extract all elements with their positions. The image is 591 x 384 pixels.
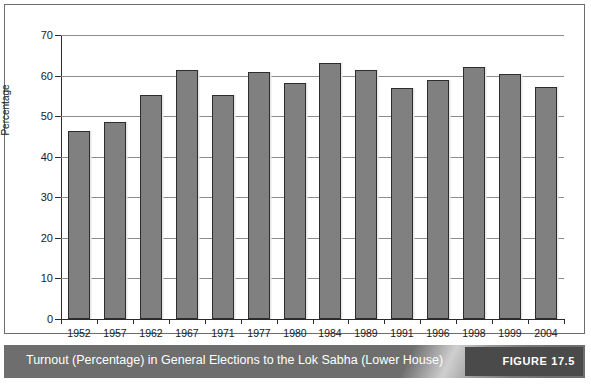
figure-caption: Turnout (Percentage) in General Election… [26, 353, 443, 367]
bar [319, 63, 341, 319]
figure-tag-label: FIGURE 17.5 [502, 355, 575, 367]
x-tick-mark [384, 319, 385, 324]
x-tick-mark [492, 319, 493, 324]
bar [391, 88, 413, 319]
gridline [61, 116, 564, 117]
gridline [61, 197, 564, 198]
x-tick-mark [169, 319, 170, 324]
y-tick-mark [55, 197, 61, 198]
y-tick-mark [55, 278, 61, 279]
y-tick-mark [55, 35, 61, 36]
gridline [61, 76, 564, 77]
gridline [61, 278, 564, 279]
x-tick-label: 2004 [523, 327, 569, 339]
y-tick-label: 70 [23, 30, 53, 40]
bar [284, 83, 306, 319]
x-tick-mark [313, 319, 314, 324]
y-tick-mark [55, 76, 61, 77]
bar [212, 95, 234, 319]
caption-band: Turnout (Percentage) in General Election… [4, 345, 585, 378]
chart-frame: 010203040506070 195219571962196719711977… [4, 4, 585, 334]
y-tick-label: 60 [23, 71, 53, 81]
x-tick-mark [205, 319, 206, 324]
x-tick-mark [528, 319, 529, 324]
bar [427, 80, 449, 319]
y-axis-title: Percentage [0, 65, 11, 155]
y-tick-mark [55, 238, 61, 239]
y-tick-mark [55, 157, 61, 158]
bar [248, 72, 270, 319]
bar [140, 95, 162, 319]
bar [499, 74, 521, 319]
gridline [61, 157, 564, 158]
bar [176, 70, 198, 319]
x-tick-mark [241, 319, 242, 324]
bar [463, 67, 485, 319]
y-tick-label: 10 [23, 273, 53, 283]
y-tick-label: 40 [23, 152, 53, 162]
y-tick-label: 0 [23, 314, 53, 324]
figure-page: 010203040506070 195219571962196719711977… [0, 0, 591, 384]
bar [535, 87, 557, 319]
x-tick-mark [456, 319, 457, 324]
x-tick-mark [420, 319, 421, 324]
bar [68, 131, 90, 319]
gridline [61, 238, 564, 239]
gridline [61, 35, 564, 36]
x-tick-mark [348, 319, 349, 324]
bar [355, 70, 377, 319]
y-tick-label: 20 [23, 233, 53, 243]
x-tick-mark [564, 319, 565, 324]
y-tick-label: 50 [23, 111, 53, 121]
bar [104, 122, 126, 319]
y-tick-mark [55, 116, 61, 117]
x-tick-mark [133, 319, 134, 324]
x-tick-mark [61, 319, 62, 324]
x-tick-mark [277, 319, 278, 324]
plot-area [61, 35, 564, 319]
y-tick-label: 30 [23, 192, 53, 202]
x-tick-mark [97, 319, 98, 324]
